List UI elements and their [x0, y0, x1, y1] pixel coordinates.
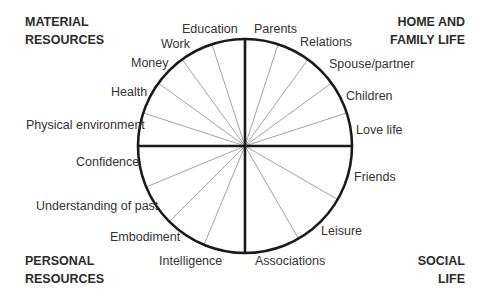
- segment-label-confidence: Confidence: [76, 155, 139, 169]
- segment-label-spouse-partner: Spouse/partner: [329, 57, 414, 71]
- title-line: MATERIAL: [25, 13, 104, 31]
- segment-label-friends: Friends: [354, 170, 396, 184]
- segment-label-relations: Relations: [300, 35, 352, 49]
- quadrant-title-social-life: SOCIAL LIFE: [380, 252, 465, 288]
- segment-label-embodiment: Embodiment: [110, 230, 180, 244]
- title-line: RESOURCES: [25, 31, 104, 49]
- segment-label-associations: Associations: [255, 254, 325, 268]
- segment-label-children: Children: [346, 89, 393, 103]
- quadrant-title-material-resources: MATERIAL RESOURCES: [25, 13, 104, 49]
- segment-label-love-life: Love life: [356, 123, 403, 137]
- segment-label-leisure: Leisure: [321, 224, 362, 238]
- segment-label-health: Health: [111, 85, 147, 99]
- segment-label-intelligence: Intelligence: [159, 254, 222, 268]
- title-line: HOME AND: [380, 13, 465, 31]
- title-line: FAMILY LIFE: [380, 31, 465, 49]
- quadrant-title-home-family-life: HOME AND FAMILY LIFE: [380, 13, 465, 49]
- title-line: LIFE: [380, 270, 465, 288]
- segment-label-physical-environment: Physical environment: [26, 118, 145, 132]
- segment-label-education: Education: [182, 22, 238, 36]
- title-line: RESOURCES: [25, 270, 104, 288]
- quadrant-title-personal-resources: PERSONAL RESOURCES: [25, 252, 104, 288]
- segment-label-money: Money: [131, 56, 169, 70]
- segment-label-understanding-of-past: Understanding of past: [36, 199, 158, 213]
- segment-label-parents: Parents: [254, 22, 297, 36]
- title-line: PERSONAL: [25, 252, 104, 270]
- title-line: SOCIAL: [380, 252, 465, 270]
- segment-label-work: Work: [161, 37, 190, 51]
